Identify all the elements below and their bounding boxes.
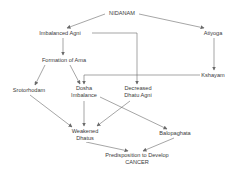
edge-weakened-predisposition — [86, 142, 128, 151]
node-balopaghata: Balopaghata — [158, 130, 191, 137]
edge-ama-srotorhodam — [35, 65, 45, 85]
node-kshayam-label: Kshayam — [201, 72, 224, 78]
node-imbalanced-agni: Imbalanced Agni — [38, 30, 81, 37]
edge-nidanam-atiyoga — [139, 14, 204, 28]
node-weakened-dhatus: Weakened Dhatus — [71, 128, 100, 142]
node-kshayam: Kshayam — [200, 72, 225, 79]
edge-decreased-weakened — [97, 101, 130, 126]
node-predisposition: Predisposition to Develop CANCER — [104, 152, 169, 166]
node-decreased-dhatu-agni: Decreased Dhatu Agni — [123, 85, 152, 99]
node-predisposition-line1: Predisposition to Develop — [105, 152, 168, 159]
node-formation-of-ama: Formation of Ama — [41, 57, 87, 64]
node-weakened-dhatus-line1: Weakened — [72, 128, 99, 135]
node-dosha-imbalance-line2: Imbalance — [71, 92, 97, 99]
node-balopaghata-label: Balopaghata — [159, 130, 190, 136]
edge-kshayam-dosha — [84, 75, 200, 84]
node-nidanam-label: NIDANAM — [109, 10, 135, 16]
edge-dosha-balopaghata — [100, 97, 167, 129]
edge-srotorhodam-weakened — [30, 95, 72, 127]
node-atiyoga: Atiyoga — [203, 30, 224, 37]
node-imbalanced-agni-label: Imbalanced Agni — [39, 30, 80, 36]
node-srotorhodam: Srotorhodam — [12, 87, 46, 94]
flowchart: NIDANAM Imbalanced Agni Atiyoga Formatio… — [0, 0, 232, 191]
edge-ama-dosha — [70, 65, 80, 84]
node-dosha-imbalance: Dosha Imbalance — [70, 85, 98, 99]
node-formation-of-ama-label: Formation of Ama — [42, 57, 86, 63]
node-dosha-imbalance-line1: Dosha — [71, 85, 97, 92]
edge-agni-decreased-dhatu-agni — [92, 33, 137, 84]
node-predisposition-line2: CANCER — [105, 159, 168, 166]
node-atiyoga-label: Atiyoga — [204, 30, 223, 36]
edge-nidanam-imbalanced-agni — [67, 14, 105, 28]
node-decreased-dhatu-agni-line1: Decreased — [124, 85, 151, 92]
node-nidanam: NIDANAM — [108, 10, 136, 17]
edge-balopaghata-predisposition — [143, 138, 174, 151]
node-srotorhodam-label: Srotorhodam — [13, 87, 45, 93]
node-weakened-dhatus-line2: Dhatus — [72, 135, 99, 142]
node-decreased-dhatu-agni-line2: Dhatu Agni — [124, 92, 151, 99]
